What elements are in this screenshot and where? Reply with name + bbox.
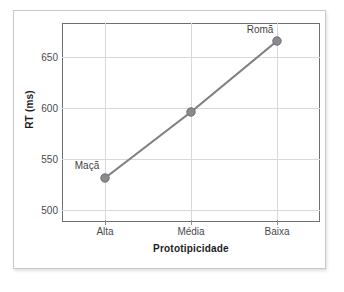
x-tick-label-baixa: Baixa (264, 225, 289, 238)
x-axis-tick-labels: Alta Média Baixa (62, 225, 320, 241)
data-point-alta (101, 174, 109, 182)
x-axis-title: Prototipicidade (62, 243, 320, 254)
y-tick-label-650: 650 (24, 52, 58, 63)
y-tick-label-600: 600 (24, 103, 58, 114)
y-axis-tick-labels: 650 600 550 500 (20, 23, 58, 222)
data-point-baixa (273, 37, 281, 45)
plot-area: Maçã Romã (62, 23, 320, 222)
chart-figure: RT (ms) 650 600 550 500 Maçã Romã Alta M… (0, 0, 344, 292)
y-tick-label-550: 550 (24, 154, 58, 165)
data-point-media (187, 108, 195, 116)
data-series-line (62, 23, 320, 222)
data-point-label-roma: Romã (247, 24, 274, 35)
x-tick-label-alta: Alta (96, 225, 113, 238)
y-tick-label-500: 500 (24, 205, 58, 216)
data-point-label-maca: Maçã (75, 160, 99, 171)
x-tick-label-media: Média (177, 225, 204, 238)
